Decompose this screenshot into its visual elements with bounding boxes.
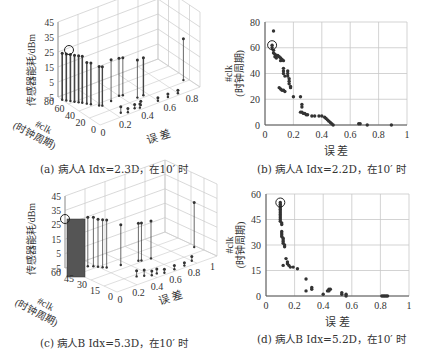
stem-marker (119, 105, 122, 108)
stem-marker (133, 103, 136, 106)
stem-base (151, 274, 153, 276)
stem-base (118, 95, 120, 97)
error-tick-label: 0 (101, 127, 106, 138)
stem-base (135, 275, 137, 277)
stem-base (143, 275, 145, 277)
error-tick-label: 0.4 (151, 281, 164, 292)
stem-base (120, 264, 122, 266)
stem-base (139, 106, 141, 108)
stem-base (90, 103, 92, 105)
chart-panel-d: 00.20.40.60.81015304560误 差#clk(时钟周期) (d)… (213, 179, 427, 358)
stem-base (127, 111, 129, 113)
stem-marker (85, 61, 88, 64)
error-axis-label: 误 差 (145, 126, 173, 146)
z-tick-label: 45 (45, 18, 55, 28)
z-tick-label: 15 (52, 235, 62, 245)
stem-base (77, 101, 79, 103)
stem-marker (135, 269, 138, 272)
y-tick-label: 45 (251, 214, 261, 225)
z-axis-label: 传感器能耗/dBm (25, 203, 37, 275)
x-tick-label: 0.8 (372, 129, 385, 140)
stem-base (150, 257, 152, 259)
y-tick-label: 60 (251, 189, 261, 200)
data-point (306, 113, 309, 116)
stem-base (156, 272, 158, 274)
x-tick-label: 1 (405, 129, 410, 140)
stem-base (81, 102, 83, 104)
caption-b: (b) 病人A Idx=2.2D，在10′ 时 (257, 161, 406, 176)
stem-marker (173, 264, 176, 267)
x-axis-label: 误 差 (324, 144, 349, 157)
data-point (358, 122, 361, 125)
data-point (296, 267, 299, 270)
x-tick-label: 0.4 (317, 300, 330, 311)
chart-panel-a: 453525155−580604020000.20.40.60.8传感器能耗/d… (0, 0, 213, 179)
y-tick-label: 20 (250, 94, 260, 105)
stem-marker (142, 56, 145, 59)
stem-marker (81, 55, 84, 58)
stem-marker (182, 37, 185, 40)
data-point (340, 293, 343, 296)
data-point (304, 277, 307, 280)
plot-area: 00.20.40.60.81015304560误 差#clk(时钟周期) (224, 189, 412, 329)
clk-tick-label: 0 (108, 291, 113, 302)
error-tick-label: 0.8 (186, 93, 199, 104)
error-tick-label: 0 (118, 294, 123, 305)
data-point (272, 29, 275, 32)
stem-base (122, 94, 124, 96)
data-point (283, 90, 286, 93)
chart-panel-b: 00.20.40.60.81020406080误 差#clk(时钟周期) (b)… (213, 0, 427, 179)
stem-marker (121, 56, 124, 59)
data-point (299, 95, 302, 98)
stem-marker (105, 219, 108, 222)
y-tick-label: 30 (251, 240, 261, 251)
stem-marker (190, 255, 193, 258)
data-point (327, 289, 330, 292)
stem-base (98, 104, 100, 106)
chart-c-3d-stem: 453525155−560453015000.20.40.60.81传感器能耗/… (0, 179, 213, 358)
stem-base (182, 79, 184, 81)
stem-base (163, 272, 165, 274)
stem-marker (98, 65, 101, 68)
stem-base (73, 101, 75, 103)
stem-marker (163, 268, 166, 271)
chart-panel-c: 453525155−560453015000.20.40.60.81传感器能耗/… (0, 179, 213, 358)
error-tick-label: 0.2 (119, 119, 132, 130)
error-tick-label: 0.8 (188, 267, 201, 278)
x-tick-label: 0.4 (316, 129, 329, 140)
stem-base (173, 268, 175, 270)
stem-base (140, 104, 142, 106)
z-tick-label: 45 (52, 192, 62, 202)
error-tick-label: 0.4 (141, 110, 154, 121)
stem-marker (166, 93, 169, 96)
stem-base (167, 96, 169, 98)
clk-axis-label: #clk(时钟周期) (11, 109, 63, 152)
data-point (281, 264, 284, 267)
y-tick-label: 0 (256, 291, 261, 302)
data-point (289, 86, 292, 89)
clk-tick-label: 60 (55, 103, 65, 114)
stem-marker (97, 218, 100, 221)
chart-a-3d-stem: 453525155−580604020000.20.40.60.8传感器能耗/d… (0, 0, 213, 179)
data-point (344, 294, 347, 297)
stem-base (69, 100, 71, 102)
data-point (390, 123, 393, 126)
data-point (322, 293, 325, 296)
y-tick-label: 0 (255, 120, 260, 131)
data-point (310, 286, 313, 289)
clk-tick-label: 0 (91, 124, 96, 135)
data-point (282, 59, 285, 62)
stem-marker (92, 216, 95, 219)
z-tick-label: 15 (45, 63, 55, 73)
stem-base (120, 112, 122, 114)
error-tick-label: 0.6 (169, 274, 182, 285)
z-tick-label: 25 (52, 220, 62, 230)
y-axis-label: #clk(时钟周期) (224, 222, 247, 269)
stem-marker (150, 269, 153, 272)
stem-marker (89, 62, 92, 65)
x-tick-label: 0 (263, 129, 268, 140)
x-tick-label: 0.2 (287, 129, 300, 140)
x-axis-label: 误 差 (325, 315, 350, 328)
data-point (304, 289, 307, 292)
stem-base (191, 260, 193, 262)
